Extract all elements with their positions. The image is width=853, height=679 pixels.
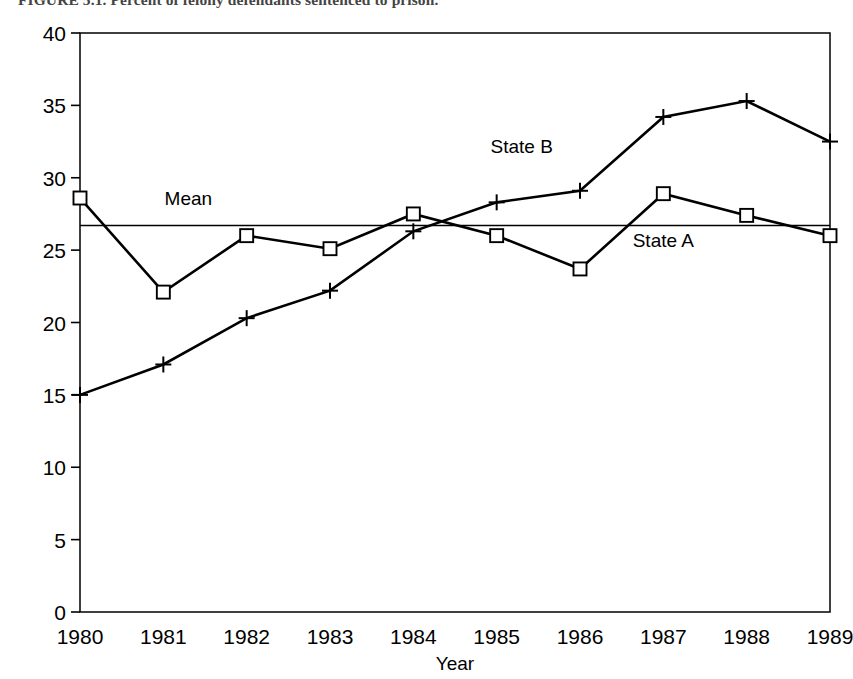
marker-state-a-1984 — [407, 207, 420, 220]
marker-state-a-1988 — [740, 209, 753, 222]
series-line-state-b — [80, 101, 830, 395]
y-tick-label-0: 0 — [54, 601, 66, 624]
annotation-state-b: State B — [491, 136, 553, 157]
x-tick-label-1984: 1984 — [390, 625, 437, 648]
x-tick-label-1981: 1981 — [140, 625, 187, 648]
series-markers — [72, 93, 838, 403]
y-tick-label-10: 10 — [43, 456, 66, 479]
x-axis-tick-labels: 1980198119821983198419851986198719881989 — [57, 625, 853, 648]
marker-state-a-1980 — [74, 192, 87, 205]
x-tick-label-1987: 1987 — [640, 625, 687, 648]
y-tick-label-25: 25 — [43, 239, 66, 262]
line-chart: 0510152025303540 19801981198219831984198… — [0, 0, 853, 679]
x-tick-label-1986: 1986 — [557, 625, 604, 648]
y-tick-label-35: 35 — [43, 94, 66, 117]
marker-state-a-1985 — [490, 229, 503, 242]
y-tick-label-5: 5 — [54, 529, 66, 552]
marker-state-a-1981 — [157, 286, 170, 299]
marker-state-a-1986 — [574, 262, 587, 275]
marker-state-a-1989 — [824, 229, 837, 242]
annotation-state-a: State A — [633, 230, 695, 251]
marker-state-a-1983 — [324, 242, 337, 255]
y-tick-label-40: 40 — [43, 22, 66, 45]
annotation-mean: Mean — [165, 188, 213, 209]
x-tick-label-1982: 1982 — [223, 625, 270, 648]
x-tick-label-1988: 1988 — [723, 625, 770, 648]
x-axis-title: Year — [436, 653, 475, 674]
x-tick-label-1980: 1980 — [57, 625, 104, 648]
x-tick-label-1989: 1989 — [807, 625, 853, 648]
y-tick-label-30: 30 — [43, 167, 66, 190]
y-axis-tick-labels: 0510152025303540 — [43, 22, 66, 624]
figure-container: FIGURE 5.1. Percent of felony defendants… — [0, 0, 853, 679]
y-tick-label-15: 15 — [43, 384, 66, 407]
plot-frame — [80, 33, 830, 612]
x-tick-label-1985: 1985 — [473, 625, 520, 648]
series-polylines — [80, 101, 830, 395]
y-axis-ticks — [71, 33, 80, 612]
y-tick-label-20: 20 — [43, 312, 66, 335]
x-tick-label-1983: 1983 — [307, 625, 354, 648]
marker-state-a-1987 — [657, 187, 670, 200]
marker-state-a-1982 — [240, 229, 253, 242]
